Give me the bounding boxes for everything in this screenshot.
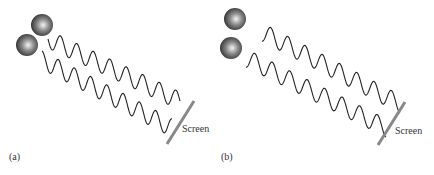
panel-a: Screen (a) [9, 14, 209, 163]
particle-top [224, 8, 246, 30]
particle-bottom [220, 37, 242, 59]
particle-top [31, 14, 53, 36]
panel-label: (b) [221, 151, 233, 163]
particle-bottom [16, 34, 38, 56]
panel-b: Screen (b) [220, 8, 422, 163]
screen-label: Screen [182, 123, 209, 134]
screen-label: Screen [395, 125, 422, 136]
panel-label: (a) [9, 151, 20, 163]
wave-top [262, 27, 400, 113]
diagram: Screen (a) Screen (b) [0, 0, 434, 175]
screen [378, 102, 405, 145]
wave-top [48, 36, 180, 105]
